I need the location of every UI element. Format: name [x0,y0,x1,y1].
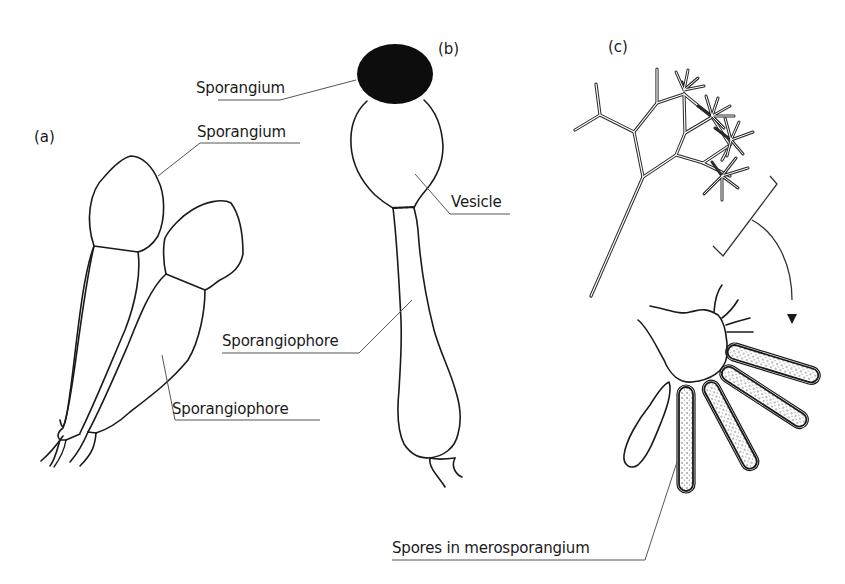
stalk [393,208,460,458]
merosporangium-1 [679,387,693,491]
panel-label-a: (a) [34,128,55,146]
sporangium-left [89,156,163,252]
sporangium-right [164,201,243,290]
enlargement-bracket [713,176,792,300]
label-b-sporangiophore: Sporangiophore [222,332,338,350]
label-a-sporangiophore: Sporangiophore [172,400,288,418]
label-a-sporangium: Sporangium [197,123,286,141]
label-c-spores-in-merosporangium: Spores in merosporangium [392,539,590,557]
sporangium-dark [357,44,433,104]
panel-label-c: (c) [608,38,628,56]
fungal-structures-diagram [0,0,845,584]
label-b-vesicle: Vesicle [451,193,502,211]
vesicle [351,100,443,208]
panel-b-leaders [218,80,510,353]
arrow-head-icon [787,314,797,324]
panel-label-b: (b) [438,40,459,58]
panel-b-drawing [351,100,462,487]
label-b-sporangium: Sporangium [196,79,285,97]
sporangiophore-left [60,246,139,433]
